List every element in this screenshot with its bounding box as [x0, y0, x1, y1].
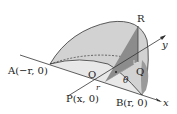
- label-B: B(r, 0): [116, 98, 148, 108]
- label-R: R: [137, 14, 145, 24]
- label-Q: Q: [136, 67, 144, 77]
- label-r: r: [96, 84, 100, 92]
- label-theta: θ: [123, 76, 128, 85]
- label-O: O: [88, 70, 96, 80]
- solid-cross-section-diagram: A(−r, 0) O P(x, 0) B(r, 0) Q R x y θ r: [0, 0, 177, 114]
- label-A: A(−r, 0): [8, 66, 48, 76]
- label-y-axis: y: [162, 40, 168, 50]
- x-axis-arrow-icon: [156, 98, 162, 102]
- point-marker: [115, 71, 117, 73]
- label-x-axis: x: [163, 98, 169, 108]
- label-P: P(x, 0): [66, 94, 99, 104]
